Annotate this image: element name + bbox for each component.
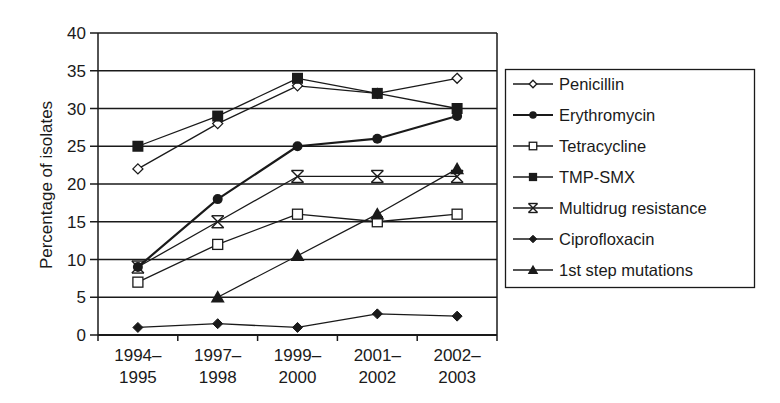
circle-filled-marker <box>372 134 382 144</box>
series-line <box>218 169 457 297</box>
series-erythromycin <box>133 111 462 272</box>
legend-label: Multidrug resistance <box>559 199 707 217</box>
y-tick-label: 30 <box>67 100 86 119</box>
legend-label: 1st step mutations <box>559 261 693 279</box>
series-line <box>138 214 457 282</box>
legend-label: TMP-SMX <box>559 168 635 186</box>
series-line <box>138 116 457 267</box>
legend-label: Penicillin <box>559 75 624 93</box>
x-tick-label-line: 2002 <box>358 368 396 387</box>
square-filled-marker <box>452 103 463 114</box>
line-chart: 0510152025303540 1994–19951997–19981999–… <box>0 0 780 403</box>
y-tick-label: 35 <box>67 62 86 81</box>
y-axis-tick-labels: 0510152025303540 <box>67 24 86 345</box>
x-tick-label-line: 1997– <box>194 346 242 365</box>
diamond-filled-marker <box>213 319 223 329</box>
series-line <box>138 78 457 169</box>
y-tick-label: 25 <box>67 137 86 156</box>
square-open-marker <box>529 142 537 150</box>
diamond-filled-marker <box>372 309 382 319</box>
series-ciprofloxacin <box>133 309 462 333</box>
x-tick-label-line: 1998 <box>199 368 237 387</box>
data-series <box>132 73 464 333</box>
y-tick-label: 10 <box>67 251 86 270</box>
triangle-filled-marker <box>291 249 305 261</box>
diamond-filled-marker <box>452 311 462 321</box>
x-tick-label: 2001–2002 <box>354 346 402 387</box>
diamond-open-marker <box>452 73 462 83</box>
x-tick-label-line: 2002– <box>433 346 481 365</box>
legend-label: Tetracycline <box>559 137 646 155</box>
x-tick-label-line: 1995 <box>119 368 157 387</box>
diamond-filled-marker <box>133 322 143 332</box>
circle-filled-marker <box>293 141 303 151</box>
square-open-marker <box>452 209 462 219</box>
square-filled-marker <box>292 73 303 84</box>
legend-label: Ciprofloxacin <box>559 230 654 248</box>
x-tick-label: 1994–1995 <box>114 346 162 387</box>
y-tick-label: 0 <box>77 326 86 345</box>
circle-filled-marker <box>529 111 537 119</box>
x-tick-label-line: 2001– <box>354 346 402 365</box>
diamond-filled-marker <box>293 322 303 332</box>
circle-filled-marker <box>213 194 223 204</box>
x-tick-label: 1997–1998 <box>194 346 242 387</box>
square-filled-marker <box>529 173 537 181</box>
triangle-filled-marker <box>211 290 225 302</box>
square-filled-marker <box>212 111 223 122</box>
x-axis-tick-labels: 1994–19951997–19981999–20002001–20022002… <box>114 346 481 387</box>
series-penicillin <box>133 73 462 174</box>
square-filled-marker <box>132 141 143 152</box>
y-tick-label: 15 <box>67 213 86 232</box>
diamond-open-marker <box>133 164 143 174</box>
legend-label: Erythromycin <box>559 106 655 124</box>
x-tick-label: 2002–2003 <box>433 346 481 387</box>
x-tick-label: 1999–2000 <box>274 346 322 387</box>
square-open-marker <box>213 239 223 249</box>
x-tick-label-line: 1999– <box>274 346 322 365</box>
y-tick-label: 20 <box>67 175 86 194</box>
square-filled-marker <box>372 88 383 99</box>
legend: PenicillinErythromycinTetracyclineTMP-SM… <box>506 70 755 288</box>
triangle-filled-marker <box>370 207 384 219</box>
y-tick-label: 5 <box>77 288 86 307</box>
series-tetracycline <box>133 209 462 287</box>
y-axis-title: Percentage of isolates <box>37 101 56 269</box>
chart-canvas: 0510152025303540 1994–19951997–19981999–… <box>0 0 780 403</box>
triangle-filled-marker <box>450 162 464 174</box>
x-tick-label-line: 1994– <box>114 346 162 365</box>
x-tick-label-line: 2000 <box>279 368 317 387</box>
y-tick-label: 40 <box>67 24 86 43</box>
square-open-marker <box>293 209 303 219</box>
x-tick-label-line: 2003 <box>438 368 476 387</box>
square-open-marker <box>133 277 143 287</box>
